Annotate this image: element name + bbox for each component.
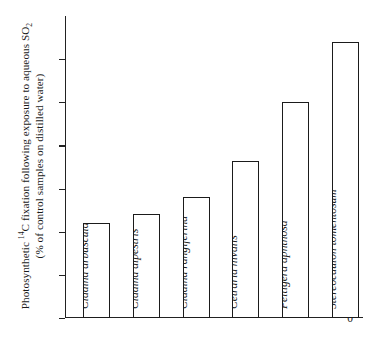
bar: Cladina arbuscula [83,223,110,318]
bars-layer: Cladina arbusculaCladina alpestrisCladin… [65,16,363,318]
y-axis-title-prefix: Photosynthetic [19,239,31,309]
y-axis-title-subscript: 2 [25,23,34,27]
bar: Stereocaulon tomentosum [332,42,359,318]
plot-area: 020406080100120 Cladina arbusculaCladina… [65,16,363,318]
bar-category-label: Cladina arbuscula [83,223,91,309]
bar-category-label: Stereocaulon tomentosum [332,189,340,309]
y-axis-tick [59,318,65,319]
bar-category-label: Cladina alpestris [133,229,141,309]
y-axis-title-mid: C fixation following exposure to aqueous… [19,27,31,232]
bar-chart: Photosynthetic 14C fixation following ex… [0,0,373,357]
bar: Cetraria nivalis [232,161,259,318]
bar: Cladina alpestris [133,214,160,318]
bar: Cladina rangiferina [183,197,210,318]
y-axis-title-line-1: Photosynthetic 14C fixation following ex… [18,23,32,309]
bar: Peltigera aphthosa [282,102,309,318]
bar-category-label: Peltigera aphthosa [282,220,290,309]
bar-category-label: Cetraria nivalis [232,235,240,309]
y-axis-title-superscript: 14 [17,231,26,239]
y-axis-title-line-2: (% of control samples on distilled water… [32,74,46,259]
y-axis-title: Photosynthetic 14C fixation following ex… [10,1,54,331]
bar-category-label: Cladina rangiferina [183,216,191,309]
